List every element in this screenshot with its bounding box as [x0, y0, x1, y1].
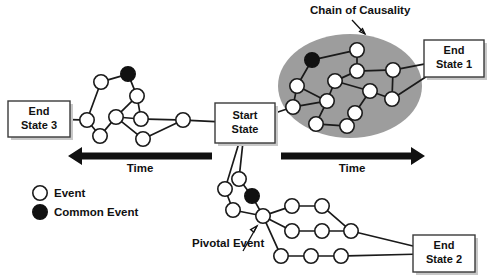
edge: [122, 118, 134, 119]
edge: [130, 80, 134, 90]
box-label-line1: End: [29, 105, 50, 117]
event-node[interactable]: [320, 94, 334, 108]
event-node[interactable]: [285, 199, 299, 213]
event-node[interactable]: [93, 129, 107, 143]
event-node[interactable]: [363, 84, 377, 98]
edge: [266, 222, 279, 250]
edge: [107, 76, 122, 80]
common-event-node[interactable]: [245, 189, 259, 203]
event-node[interactable]: [340, 119, 354, 133]
box-label-line2: State 2: [426, 253, 462, 265]
event-node[interactable]: [226, 203, 240, 217]
event-node[interactable]: [176, 113, 190, 127]
edge: [239, 211, 256, 214]
common-event-node[interactable]: [305, 53, 319, 67]
event-node[interactable]: [285, 224, 299, 238]
event-node[interactable]: [304, 249, 318, 263]
event-node[interactable]: [94, 75, 108, 89]
edge: [363, 70, 386, 71]
event-node[interactable]: [315, 224, 329, 238]
common-event-marker-icon: [33, 205, 47, 219]
edge: [149, 123, 177, 137]
event-node[interactable]: [134, 112, 148, 126]
time-axes-layer: TimeTime: [68, 147, 425, 174]
event-marker-icon: [33, 186, 47, 200]
event-node[interactable]: [218, 182, 232, 196]
edge: [89, 88, 99, 114]
edge: [147, 119, 176, 120]
state-box-end-state-2[interactable]: EndState 2: [413, 235, 478, 275]
event-node[interactable]: [348, 106, 362, 120]
chain-of-causality-label: Chain of Causality: [310, 4, 411, 16]
legend-item-label: Common Event: [54, 206, 139, 218]
event-node[interactable]: [315, 199, 329, 213]
causality-diagram-svg: EndState 3StartStateEndState 1EndState 2…: [0, 0, 491, 278]
event-node[interactable]: [80, 113, 94, 127]
event-node[interactable]: [328, 74, 342, 88]
box-label-line1: End: [434, 239, 455, 251]
event-node[interactable]: [130, 89, 144, 103]
legend-event: Event: [33, 186, 86, 200]
pivotal-event-pointer-head: [251, 226, 257, 232]
legend-item-label: Event: [54, 187, 85, 199]
time-axis-left: Time: [68, 147, 212, 174]
time-axis-label: Time: [127, 162, 154, 174]
event-node[interactable]: [274, 249, 288, 263]
box-label-line2: State: [232, 123, 259, 135]
edge: [269, 219, 287, 228]
event-node[interactable]: [290, 79, 304, 93]
legend-common-event: Common Event: [33, 205, 139, 219]
common-event-node[interactable]: [121, 67, 135, 81]
event-node[interactable]: [136, 132, 150, 146]
event-node[interactable]: [344, 224, 358, 238]
event-node[interactable]: [109, 110, 123, 124]
time-axis-label: Time: [339, 162, 366, 174]
edge: [269, 208, 286, 214]
edge: [189, 120, 215, 121]
diagram-canvas: EndState 3StartStateEndState 1EndState 2…: [0, 0, 491, 278]
event-node[interactable]: [350, 64, 364, 78]
edge: [392, 76, 393, 92]
event-node[interactable]: [286, 100, 300, 114]
box-label-line2: State 1: [436, 58, 472, 70]
event-node[interactable]: [256, 209, 270, 223]
box-label-line2: State 3: [21, 119, 57, 131]
event-node[interactable]: [385, 92, 399, 106]
event-node[interactable]: [386, 63, 400, 77]
legend: EventCommon Event: [33, 186, 139, 219]
event-node[interactable]: [350, 43, 364, 57]
chain-of-causality-pointer-line: [352, 20, 365, 34]
state-box-end-state-1[interactable]: EndState 1: [424, 40, 487, 80]
edge: [347, 254, 413, 256]
state-box-end-state-3[interactable]: EndState 3: [8, 101, 73, 140]
state-box-start-state[interactable]: StartState: [215, 103, 278, 146]
event-node[interactable]: [232, 172, 246, 186]
pivotal-event-label: Pivotal Event: [192, 237, 264, 249]
edge: [322, 124, 340, 125]
edge: [121, 101, 133, 113]
box-label-line1: Start: [232, 109, 257, 121]
box-label-line1: End: [444, 44, 465, 56]
edge: [327, 210, 346, 227]
edge: [104, 122, 112, 131]
time-axis-right: Time: [281, 147, 425, 174]
edge: [240, 143, 243, 173]
event-node[interactable]: [309, 117, 323, 131]
edge: [357, 233, 413, 246]
event-node[interactable]: [334, 249, 348, 263]
